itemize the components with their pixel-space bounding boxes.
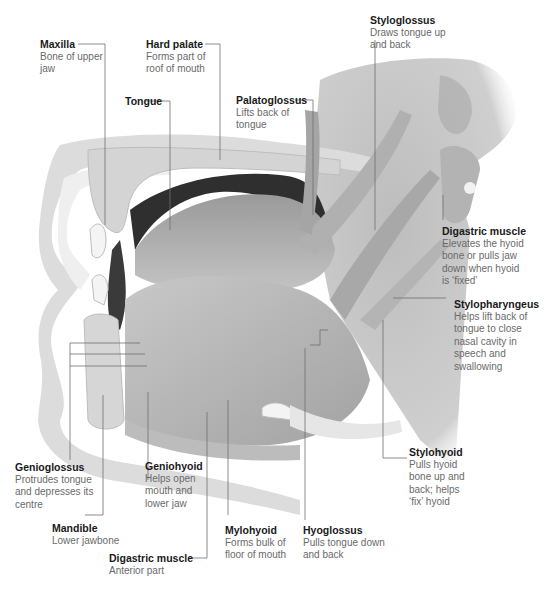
label-styloglossus: Styloglossus Draws tongue up and back [370, 14, 446, 52]
label-palatoglossus: Palatoglossus Lifts back of tongue [236, 94, 307, 132]
label-mylohyoid: Mylohyoid Forms bulk of floor of mouth [225, 524, 286, 562]
label-hard-palate: Hard palate Forms part of roof of mouth [146, 38, 205, 76]
label-desc: Draws tongue up and back [370, 27, 446, 52]
label-title: Mandible [52, 522, 119, 535]
label-title: Tongue [125, 95, 162, 108]
label-desc: Anterior part [109, 565, 193, 578]
label-title: Genioglossus [15, 461, 93, 474]
label-desc: Elevates the hyoid bone or pulls jaw dow… [442, 238, 526, 288]
label-title: Palatoglossus [236, 94, 307, 107]
label-desc: Helps lift back of tongue to close nasal… [454, 311, 539, 374]
label-geniohyoid: Geniohyoid Helps open mouth and lower ja… [145, 460, 203, 510]
label-genioglossus: Genioglossus Protrudes tongue and depres… [15, 461, 93, 511]
label-title: Stylohyoid [409, 446, 465, 459]
label-desc: Bone of upper jaw [40, 51, 103, 76]
teeth [90, 224, 108, 305]
label-title: Geniohyoid [145, 460, 203, 473]
label-desc: Pulls tongue down and back [303, 537, 385, 562]
label-stylohyoid: Stylohyoid Pulls hyoid bone up and back;… [409, 446, 465, 509]
label-title: Hard palate [146, 38, 205, 51]
label-title: Hyoglossus [303, 524, 385, 537]
label-desc: Helps open mouth and lower jaw [145, 473, 203, 511]
label-desc: Lifts back of tongue [236, 107, 307, 132]
label-title: Maxilla [40, 38, 103, 51]
digastric-posterior-shape [440, 146, 480, 223]
mandible-bone [84, 314, 124, 429]
label-title: Stylopharyngeus [454, 298, 539, 311]
label-hyoglossus: Hyoglossus Pulls tongue down and back [303, 524, 385, 562]
label-stylopharyngeus: Stylopharyngeus Helps lift back of tongu… [454, 298, 539, 373]
label-title: Styloglossus [370, 14, 446, 27]
label-title: Digastric muscle [109, 552, 193, 565]
label-desc: Lower jawbone [52, 535, 119, 548]
label-desc: Pulls hyoid bone up and back; helps ‘fix… [409, 459, 465, 509]
label-digastric-anterior: Digastric muscle Anterior part [109, 552, 193, 577]
label-title: Mylohyoid [225, 524, 286, 537]
label-title: Digastric muscle [442, 225, 526, 238]
label-maxilla: Maxilla Bone of upper jaw [40, 38, 103, 76]
label-desc: Protrudes tongue and depresses its centr… [15, 474, 93, 512]
label-mandible: Mandible Lower jawbone [52, 522, 119, 547]
label-desc: Forms part of roof of mouth [146, 51, 205, 76]
label-tongue: Tongue [125, 95, 162, 108]
label-digastric-posterior: Digastric muscle Elevates the hyoid bone… [442, 225, 526, 288]
label-desc: Forms bulk of floor of mouth [225, 537, 286, 562]
